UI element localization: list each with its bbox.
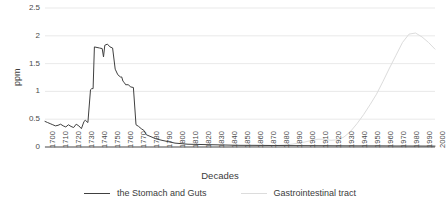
x-axis-tick-label: 1880 — [282, 131, 291, 148]
legend-item-gastrointestinal-tract: Gastrointestinal tract — [241, 188, 357, 198]
chart-legend: the Stomach and Guts Gastrointestinal tr… — [0, 188, 440, 198]
x-axis-tick-label: 1980 — [412, 131, 421, 148]
x-axis-tick-label: 1840 — [230, 131, 239, 148]
x-axis-tick-label: 1810 — [191, 131, 200, 148]
y-axis-tick-label: 2.5 — [10, 4, 40, 12]
x-axis-tick-label: 1960 — [386, 131, 395, 148]
y-axis-tick-label: 1 — [10, 87, 40, 95]
x-axis-tick-label: 1850 — [243, 131, 252, 148]
legend-label-stomach-and-guts: the Stomach and Guts — [117, 188, 207, 198]
y-axis-tick-label: 0 — [10, 143, 40, 151]
x-axis-tick-label: 1870 — [269, 131, 278, 148]
x-axis-tick-label: 1930 — [347, 131, 356, 148]
legend-swatch-stomach-and-guts — [84, 193, 110, 194]
x-axis-tick-label: 1940 — [360, 131, 369, 148]
x-axis-tick-label: 1910 — [321, 131, 330, 148]
x-axis-tick-label: 1830 — [217, 131, 226, 148]
legend-label-gastrointestinal-tract: Gastrointestinal tract — [274, 188, 357, 198]
x-axis-tick-label: 1790 — [165, 131, 174, 148]
y-axis-tick-label: 1.5 — [10, 60, 40, 68]
x-axis-tick-label: 1710 — [61, 131, 70, 148]
x-axis-title: Decades — [0, 170, 440, 181]
x-axis-tick-label: 1890 — [295, 131, 304, 148]
x-axis-tick-labels: 1700171017201730174017501760177017801790… — [45, 146, 435, 170]
y-axis-tick-label: 2 — [10, 32, 40, 40]
x-axis-tick-label: 1800 — [178, 131, 187, 148]
x-axis-tick-label: 1750 — [113, 131, 122, 148]
x-axis-tick-label: 1780 — [152, 131, 161, 148]
y-axis-tick-label: 0.5 — [10, 115, 40, 123]
x-axis-tick-label: 1760 — [126, 131, 135, 148]
x-axis-tick-label: 1950 — [373, 131, 382, 148]
x-axis-tick-label: 1700 — [48, 131, 57, 148]
chart-svg — [45, 8, 435, 147]
x-axis-tick-label: 1730 — [87, 131, 96, 148]
plot-area — [45, 8, 435, 147]
x-axis-tick-label: 1740 — [100, 131, 109, 148]
x-axis-tick-label: 1820 — [204, 131, 213, 148]
x-axis-tick-label: 1970 — [399, 131, 408, 148]
x-axis-tick-label: 1920 — [334, 131, 343, 148]
x-axis-tick-label: 2000 — [438, 131, 447, 148]
x-axis-tick-label: 1990 — [425, 131, 434, 148]
series-line — [45, 33, 435, 147]
legend-swatch-gastrointestinal-tract — [241, 193, 267, 194]
x-axis-tick-label: 1900 — [308, 131, 317, 148]
x-axis-tick-label: 1770 — [139, 131, 148, 148]
x-axis-tick-label: 1720 — [74, 131, 83, 148]
x-axis-tick-label: 1860 — [256, 131, 265, 148]
legend-item-stomach-and-guts: the Stomach and Guts — [84, 188, 207, 198]
